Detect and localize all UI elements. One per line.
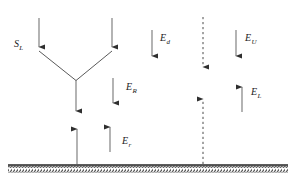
scatter-branch-left	[39, 51, 76, 81]
label-downward-d: Ed	[160, 33, 170, 43]
label-upper-U-subscript: U	[251, 38, 256, 46]
label-upper-U: EU	[245, 33, 256, 43]
diagram-vector-layer	[0, 0, 294, 186]
ground-surface-group	[8, 165, 288, 173]
label-solar-incoming: SL	[14, 39, 23, 49]
label-reflected-R: ER	[126, 82, 136, 92]
ground-hatching	[8, 166, 288, 173]
solar-beam-group	[39, 18, 112, 111]
label-solar-incoming-subscript: L	[19, 44, 23, 52]
label-longwave-L-subscript: L	[257, 92, 261, 100]
label-downward-d-subscript: d	[166, 38, 170, 46]
energy-flux-diagram: SL Ed ER EU EL Er	[0, 0, 294, 186]
label-reflected-R-subscript: R	[132, 87, 136, 95]
label-longwave-L: EL	[251, 87, 261, 97]
label-surface-r-subscript: r	[128, 141, 131, 149]
scatter-branch-right	[76, 51, 112, 81]
label-surface-r: Er	[122, 136, 131, 146]
